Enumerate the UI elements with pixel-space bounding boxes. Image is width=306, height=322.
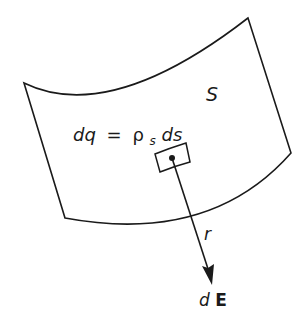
equation-subscript: s: [150, 134, 156, 148]
field-label-E: E: [215, 290, 227, 310]
charge-equation: dq = ρ s ds: [73, 124, 182, 149]
equation-lhs: dq: [73, 124, 96, 145]
distance-label: r: [204, 224, 212, 244]
surface-outline: [24, 18, 291, 224]
field-label: d E: [199, 290, 227, 310]
equation-rho: ρ: [132, 124, 143, 145]
surface-charge-diagram: S dq = ρ s ds r d E: [0, 0, 306, 322]
distance-vector: [172, 158, 209, 272]
equation-equals: =: [107, 124, 122, 145]
surface-label: S: [206, 83, 218, 105]
equation-rhs: ds: [162, 124, 183, 145]
field-label-d: d: [199, 290, 210, 310]
